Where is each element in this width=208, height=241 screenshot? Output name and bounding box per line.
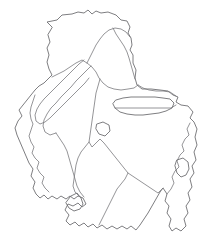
- southwest-valley-boundary: [56, 133, 84, 197]
- northern-district-divider: [52, 60, 138, 90]
- outer-boundary: [15, 10, 197, 231]
- east-bulge-enclave: [175, 158, 189, 177]
- eastern-divider: [128, 173, 163, 193]
- diagonal-corridor-left: [35, 60, 89, 124]
- map-outline-svg: [0, 0, 208, 241]
- east-lower-divider: [115, 105, 176, 108]
- southeast-coast-inner: [167, 123, 190, 194]
- enclave-group: [66, 97, 189, 211]
- southern-arrow-enclave: [66, 193, 83, 211]
- east-upper-divider: [138, 85, 176, 96]
- southeast-plain-boundary: [73, 142, 89, 196]
- horizontal-enclave-east: [113, 97, 174, 115]
- small-pentagon-enclave-center: [96, 122, 110, 136]
- central-basin-boundary: [89, 79, 128, 225]
- map-canvas: [0, 0, 208, 241]
